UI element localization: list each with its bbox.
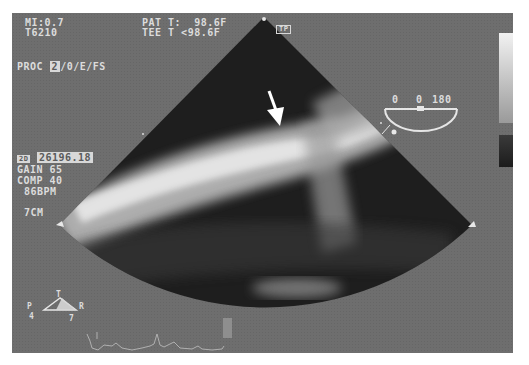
ultrasound-screen: MI:0.7 T6210 PROC 2/0/E/FS PAT T: 98.6F … — [12, 13, 513, 353]
protractor-mid-label: 0 — [416, 95, 423, 105]
ecg-trace — [87, 334, 224, 350]
ecg-marker — [223, 318, 232, 338]
heart-rate: 86BPM — [24, 187, 57, 197]
probe-icon: TP — [276, 23, 291, 34]
frequency-readout: 2D 26196.18 — [17, 153, 93, 164]
frequency-value: 26196.18 — [37, 152, 93, 163]
processing-highlight: 2 — [50, 61, 61, 72]
depth-value: 7CM — [24, 208, 44, 218]
probe-model: T6210 — [25, 28, 58, 38]
grayscale-bar — [499, 33, 513, 179]
orientation-right-label: R — [79, 302, 84, 312]
gain-value: GAIN 65 — [17, 165, 63, 175]
protractor-angle-value: 180 — [432, 95, 452, 105]
mode-icon: 2D — [17, 155, 30, 163]
protractor-left-label: 0 — [392, 95, 399, 105]
orientation-bottom-right-label: 7 — [69, 314, 74, 324]
orientation-left-label: P — [27, 302, 32, 312]
compression-value: COMP 40 — [17, 176, 63, 186]
orientation-bottom-left-label: 4 — [29, 312, 34, 322]
tee-temperature: TEE T <98.6F — [142, 28, 220, 38]
processing-settings: PROC 2/0/E/FS — [17, 62, 106, 72]
orientation-top-label: T — [56, 290, 61, 300]
